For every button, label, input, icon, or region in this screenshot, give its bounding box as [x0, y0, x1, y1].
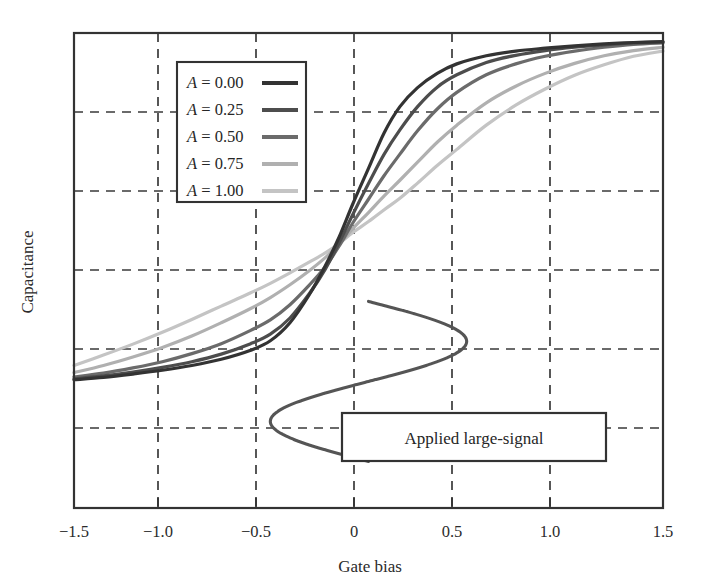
legend-equals-2: =	[201, 127, 210, 146]
legend-value-2: 0.50	[215, 127, 244, 146]
x-tick-label-0: 0	[350, 522, 358, 541]
y-axis-title: Capacitance	[18, 230, 37, 313]
legend-value-4: 1.00	[215, 181, 244, 200]
legend-equals-4: =	[201, 181, 210, 200]
legend-value-3: 0.75	[215, 154, 244, 173]
capacitance-vs-gate-bias-chart: −1.5 −1.0 −0.5 0 0.5 1.0 1.5 Gate bias C…	[0, 0, 720, 587]
annotation-label: Applied large-signal	[405, 429, 544, 448]
legend-value-1: 0.25	[215, 100, 244, 119]
x-tick-label--0.5: −0.5	[241, 522, 271, 541]
legend-label-2: A = 0.50	[186, 127, 244, 146]
x-axis-title: Gate bias	[338, 557, 402, 576]
x-tick-label--1.0: −1.0	[143, 522, 173, 541]
legend-label-0: A = 0.00	[186, 73, 244, 92]
legend-label-1: A = 0.25	[186, 100, 244, 119]
chart-background	[0, 0, 720, 587]
x-tick-label-1.5: 1.5	[653, 522, 674, 541]
legend-equals-0: =	[201, 73, 210, 92]
legend-label-3: A = 0.75	[186, 154, 244, 173]
x-tick-label-1.0: 1.0	[540, 522, 561, 541]
x-tick-label--1.5: −1.5	[59, 522, 89, 541]
legend-equals-1: =	[201, 100, 210, 119]
legend: A = 0.00 A = 0.25 A = 0.50 A = 0.75 A = …	[177, 62, 306, 202]
x-tick-label-0.5: 0.5	[442, 522, 463, 541]
legend-label-4: A = 1.00	[186, 181, 244, 200]
legend-equals-3: =	[201, 154, 210, 173]
applied-large-signal-annotation: Applied large-signal	[342, 413, 606, 461]
legend-value-0: 0.00	[215, 73, 244, 92]
